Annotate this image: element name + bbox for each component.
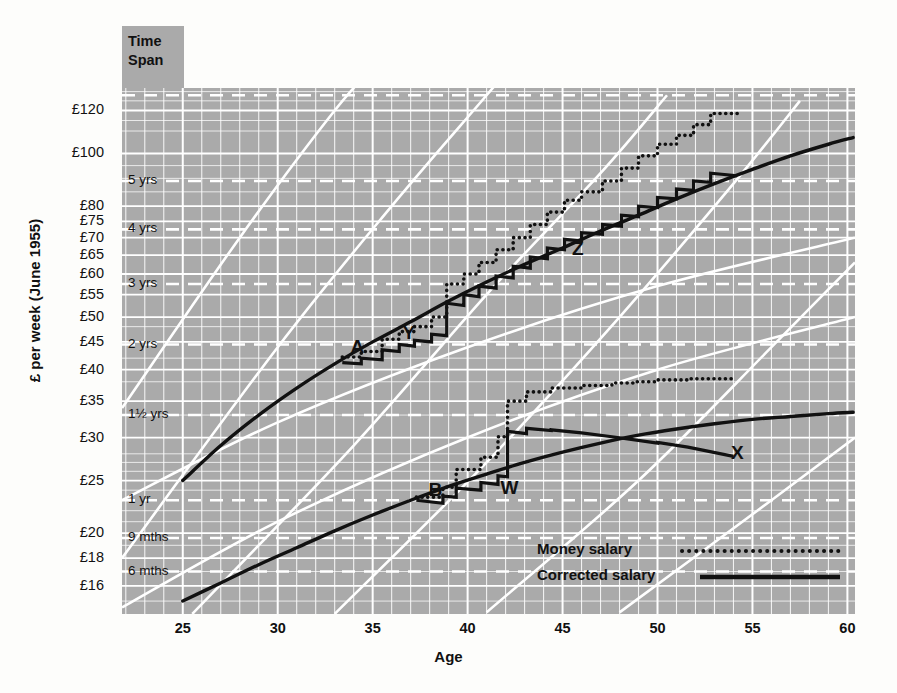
y-axis-tick-label: £55 <box>80 286 104 302</box>
legend-entry-label: Money salary <box>537 540 632 557</box>
time-span-header-line2: Span <box>128 51 184 70</box>
y-axis-tick-labels: £120£100£80£75£70£65£60£55£50£45£40£35£3… <box>0 0 114 693</box>
plot-background <box>122 88 855 614</box>
x-axis-tick-label: 60 <box>822 620 872 636</box>
y-axis-tick-label: £35 <box>80 392 104 408</box>
y-axis-tick-label: £50 <box>80 308 104 324</box>
y-axis-tick-label: £16 <box>80 577 104 593</box>
time-span-header: Time Span <box>122 26 184 88</box>
y-axis-tick-label: £60 <box>80 265 104 281</box>
time-span-label: 4 yrs <box>128 220 157 235</box>
legend-entry-label: Corrected salary <box>537 566 655 583</box>
y-axis-tick-label: £30 <box>80 429 104 445</box>
x-axis-tick-label: 35 <box>348 620 398 636</box>
annotation-label: W <box>500 477 518 498</box>
time-span-label: 6 mths <box>128 563 169 578</box>
time-span-header-line1: Time <box>128 32 184 51</box>
y-axis-tick-label: £100 <box>72 144 104 160</box>
time-span-label: 1½ yrs <box>128 406 169 421</box>
y-axis-tick-label: £120 <box>72 101 104 117</box>
time-span-label: 9 mths <box>128 529 169 544</box>
x-axis-tick-label: 30 <box>253 620 303 636</box>
x-axis-tick-label: 55 <box>727 620 777 636</box>
annotation-label: A <box>351 336 365 357</box>
y-axis-tick-label: £80 <box>80 197 104 213</box>
y-axis-tick-label: £70 <box>80 229 104 245</box>
y-axis-tick-label: £25 <box>80 472 104 488</box>
annotation-label: X <box>731 442 744 463</box>
y-axis-tick-label: £20 <box>80 524 104 540</box>
x-axis-tick-label: 25 <box>158 620 208 636</box>
chart-figure: £ per week (June 1955) £120£100£80£75£70… <box>0 0 897 693</box>
annotation-label: B <box>428 479 442 500</box>
y-axis-tick-label: £18 <box>80 549 104 565</box>
annotation-label: Y <box>402 322 415 343</box>
y-axis-tick-label: £45 <box>80 333 104 349</box>
annotation-label: Z <box>572 238 584 259</box>
time-span-label: 2 yrs <box>128 336 157 351</box>
time-span-label: 1 yr <box>128 491 151 506</box>
y-axis-tick-label: £75 <box>80 212 104 228</box>
time-span-label: 5 yrs <box>128 172 157 187</box>
y-axis-tick-label: £40 <box>80 361 104 377</box>
x-axis-tick-label: 45 <box>538 620 588 636</box>
x-axis-tick-label: 50 <box>633 620 683 636</box>
time-span-label: 3 yrs <box>128 275 157 290</box>
x-axis-title: Age <box>0 648 897 665</box>
y-axis-tick-label: £65 <box>80 246 104 262</box>
x-axis-tick-label: 40 <box>443 620 493 636</box>
